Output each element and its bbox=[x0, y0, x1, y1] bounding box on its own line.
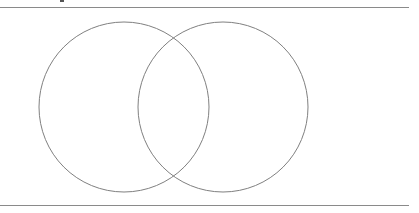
bottom-divider bbox=[0, 205, 409, 206]
venn-circle-right bbox=[138, 22, 308, 192]
venn-diagram bbox=[0, 0, 419, 213]
venn-circle-left bbox=[39, 22, 209, 192]
